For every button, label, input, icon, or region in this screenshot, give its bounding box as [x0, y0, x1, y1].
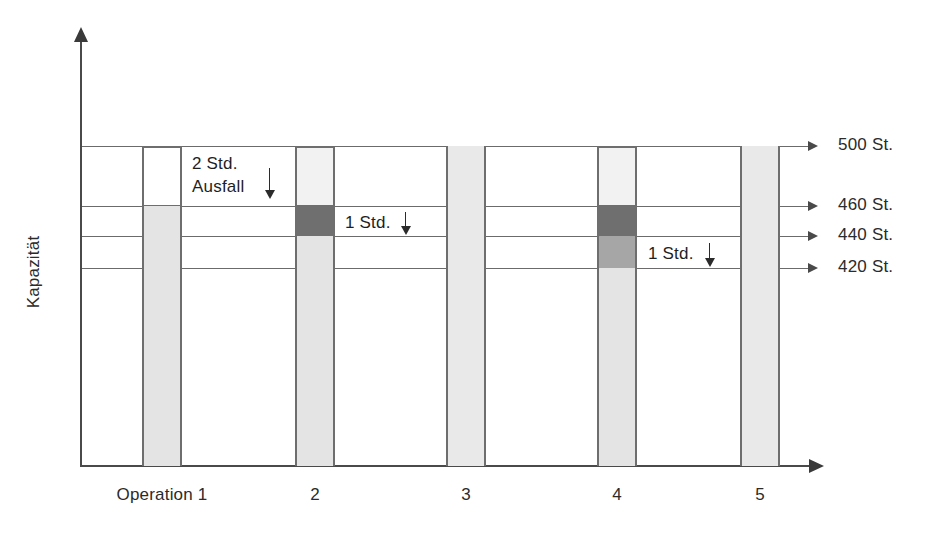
x-label-4: 4 — [577, 485, 657, 505]
x-axis-arrow-icon — [809, 459, 824, 473]
y-axis-title: Kapazität — [24, 202, 44, 342]
level-arrow-500-icon — [808, 141, 818, 151]
x-label-5: 5 — [720, 485, 800, 505]
annotation-1std-b: 1 Std. — [648, 242, 694, 265]
annotation-1std-a-arrow-down-icon — [401, 226, 411, 235]
bar-2-segment-loss — [295, 206, 335, 237]
bar-4-segment-loss-1 — [597, 206, 637, 237]
level-arrow-420-icon — [808, 263, 818, 273]
level-label-420: 420 St. — [838, 257, 893, 277]
annotation-ausfall: 2 Std. Ausfall — [192, 152, 244, 198]
level-line-420 — [82, 268, 808, 269]
annotation-ausfall-line2: Ausfall — [192, 175, 244, 198]
annotation-ausfall-line1: 2 Std. — [192, 152, 244, 175]
level-arrow-460-icon — [808, 201, 818, 211]
annotation-ausfall-arrow-shaft — [269, 168, 270, 192]
bar-2-segment-available — [295, 236, 335, 466]
annotation-1std-b-line1: 1 Std. — [648, 242, 694, 265]
bar-3-segment-available — [446, 146, 486, 466]
level-arrow-440-icon — [808, 231, 818, 241]
annotation-1std-a: 1 Std. — [345, 211, 391, 234]
y-axis-arrow-icon — [74, 27, 88, 42]
bar-5-segment-available — [740, 146, 780, 466]
capacity-bar-chart: Kapazität 500 St. 460 St. 440 St. 420 St… — [0, 0, 929, 539]
level-label-500: 500 St. — [838, 135, 893, 155]
level-label-460: 460 St. — [838, 195, 893, 215]
y-axis — [80, 40, 82, 467]
x-label-3: 3 — [426, 485, 506, 505]
bar-4-segment-loss-2 — [597, 236, 637, 269]
level-line-500 — [82, 146, 808, 147]
annotation-ausfall-arrow-down-icon — [265, 190, 275, 199]
bar-1-segment-ausfall — [142, 146, 182, 207]
bar-1-segment-available — [142, 206, 182, 466]
bar-4-segment-available — [597, 268, 637, 466]
x-label-operation-1: Operation 1 — [92, 485, 232, 505]
annotation-1std-b-arrow-down-icon — [705, 258, 715, 267]
x-label-2: 2 — [275, 485, 355, 505]
level-line-440 — [82, 236, 808, 237]
bar-2-segment-carry — [295, 146, 335, 207]
level-label-440: 440 St. — [838, 225, 893, 245]
bar-4-segment-carry — [597, 146, 637, 207]
annotation-1std-a-line1: 1 Std. — [345, 211, 391, 234]
level-line-460 — [82, 206, 808, 207]
